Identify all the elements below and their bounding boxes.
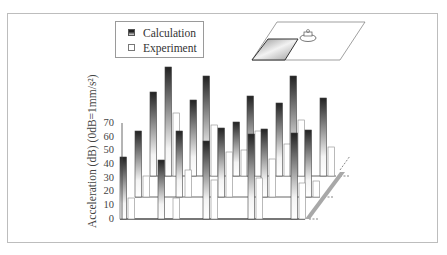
- calculation-bar: [190, 100, 197, 176]
- calculation-bar: [320, 98, 327, 176]
- y-tick: 30: [100, 173, 114, 183]
- y-axis-label: Acceleration (dB) (0dB=1mm/s²): [86, 74, 98, 228]
- calculation-bar: [120, 157, 127, 219]
- legend-label: Experiment: [143, 42, 197, 54]
- experiment-bar: [284, 144, 291, 176]
- calculation-bar: [165, 67, 172, 176]
- experiment-bar: [241, 150, 248, 176]
- calculation-bar: [305, 130, 312, 197]
- calculation-bar: [158, 160, 165, 219]
- y-tick: 70: [100, 118, 114, 128]
- experiment-bar: [256, 178, 263, 219]
- experiment-bar: [226, 152, 233, 197]
- calculation-bar: [176, 131, 183, 197]
- calculation-bar: [291, 133, 298, 219]
- legend: Calculation Experiment: [115, 21, 204, 58]
- calculation-swatch-icon: [128, 29, 135, 36]
- y-tick: 10: [100, 200, 114, 210]
- y-tick: 20: [100, 186, 114, 196]
- calculation-bar: [150, 92, 157, 176]
- calculation-bar: [233, 122, 240, 176]
- experiment-bar: [255, 131, 262, 176]
- legend-item-calculation: Calculation: [128, 26, 196, 39]
- y-tick: 40: [100, 159, 114, 169]
- calculation-bar: [135, 131, 142, 197]
- experiment-bar: [185, 170, 192, 197]
- legend-item-experiment: Experiment: [128, 41, 197, 54]
- calculation-bar: [218, 128, 225, 197]
- experiment-bar: [328, 147, 335, 176]
- experiment-bar: [299, 183, 306, 219]
- experiment-bar: [313, 181, 320, 197]
- experiment-bar: [143, 176, 150, 197]
- experiment-bar: [211, 180, 218, 219]
- experiment-bar: [298, 120, 305, 176]
- experiment-bar: [211, 125, 218, 176]
- calculation-bar: [248, 134, 255, 219]
- calculation-bar: [203, 141, 210, 219]
- inset-plate-schematic: [252, 22, 365, 60]
- experiment-bar: [128, 198, 135, 219]
- y-tick: 50: [100, 145, 114, 155]
- calculation-bar: [276, 103, 283, 176]
- bars-group: [120, 67, 335, 219]
- experiment-bar: [173, 198, 180, 219]
- experiment-swatch-icon: [128, 44, 135, 51]
- 3d-bar-chart: [0, 0, 447, 255]
- y-tick: 0: [100, 214, 114, 224]
- legend-label: Calculation: [143, 27, 196, 39]
- y-tick: 60: [100, 132, 114, 142]
- experiment-bar: [269, 159, 276, 197]
